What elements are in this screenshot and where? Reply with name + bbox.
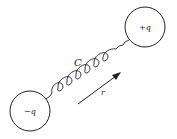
arrow-shaft	[78, 76, 116, 104]
spring-coils	[52, 49, 116, 93]
spring-lead-top	[116, 40, 129, 49]
displacement-vector	[78, 72, 121, 104]
negative-charge: −q	[10, 91, 50, 131]
spring-charge-diagram: +q −q C r	[0, 0, 177, 139]
vector-label: r	[101, 88, 106, 97]
spring	[46, 40, 129, 99]
positive-charge: +q	[125, 7, 165, 47]
spring-lead-bottom	[46, 93, 52, 99]
positive-charge-label: +q	[139, 23, 151, 32]
arrow-head-icon	[112, 72, 121, 80]
spring-label: C	[74, 57, 82, 68]
negative-charge-label: −q	[24, 107, 36, 116]
